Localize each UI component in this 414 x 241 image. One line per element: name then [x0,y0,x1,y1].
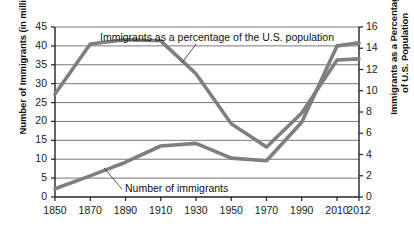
right-tick-label: 8 [366,105,392,117]
right-tick-label: 0 [366,190,392,202]
right-tick-label: 10 [366,84,392,96]
left-tick-label: 20 [21,114,47,126]
x-tick-label: 2012 [339,204,379,216]
x-tick-label: 1930 [176,204,216,216]
left-tick-label: 25 [21,96,47,108]
percentage-leader-line [182,44,196,63]
gridlines [55,27,359,178]
x-tick-label: 1890 [106,204,146,216]
left-tick-label: 15 [21,133,47,145]
x-tick-label: 1850 [35,204,75,216]
left-tick-label: 30 [21,77,47,89]
data-series-group [55,40,359,189]
annotation-leader-lines [104,44,196,189]
x-tick-label: 1970 [247,204,287,216]
percentage-series-annotation: Immigrants as a percentage of the U.S. p… [100,31,334,43]
left-tick-label: 35 [21,58,47,70]
left-tick-label: 45 [21,20,47,32]
right-tick-label: 4 [366,148,392,160]
x-tick-label: 1910 [141,204,181,216]
immigration-dual-axis-chart: Number of Immigrants (in millions) Immig… [0,0,414,241]
number-series-annotation: Number of immigrants [125,182,228,194]
x-tick-label: 1950 [211,204,251,216]
right-tick-label: 12 [366,63,392,75]
left-tick-label: 0 [21,190,47,202]
right-tick-label: 16 [366,20,392,32]
right-tick-label: 14 [366,41,392,53]
right-tick-label: 2 [366,169,392,181]
left-tick-label: 40 [21,39,47,51]
left-tick-label: 10 [21,152,47,164]
x-tick-label: 1870 [70,204,110,216]
right-tick-label: 6 [366,126,392,138]
x-tick-label: 1990 [282,204,322,216]
left-tick-label: 5 [21,171,47,183]
